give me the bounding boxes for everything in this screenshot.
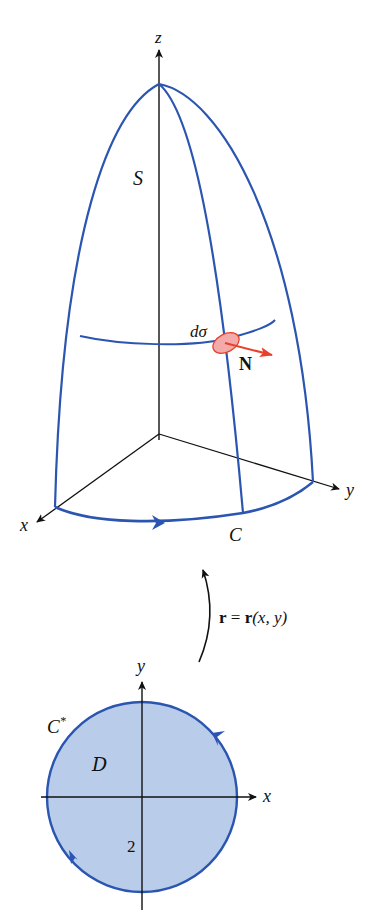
boundary-label-C: C [229, 524, 242, 545]
surface-figure: z S dσ N x y C [19, 28, 354, 545]
surface-cross-section [80, 320, 275, 344]
area-element-label: dσ [190, 322, 208, 341]
domain-y-axis-label: y [135, 656, 145, 676]
boundary-curve-C [55, 482, 313, 521]
mapping-equation: r = r(x, y) [219, 608, 287, 627]
surface-right-edge [159, 84, 313, 482]
domain-x-axis-label: x [262, 786, 271, 806]
mapping: r = r(x, y) [199, 570, 287, 662]
normal-label-N: N [239, 354, 252, 374]
domain-boundary-label: C* [47, 714, 66, 737]
stokes-diagram: z S dσ N x y C r = r(x, y) y x C* D 2 [0, 0, 377, 916]
domain-figure: y x C* D 2 [41, 656, 271, 910]
mapping-arrow [199, 570, 210, 662]
z-axis-label: z [154, 28, 162, 47]
domain-region-label: D [91, 753, 107, 775]
radius-label: 2 [127, 837, 136, 856]
y-axis-label: y [344, 480, 354, 500]
surface-left-edge [55, 84, 159, 507]
x-axis-label: x [19, 515, 28, 535]
surface-label-S: S [133, 167, 143, 189]
boundary-direction-arrow [152, 515, 165, 530]
